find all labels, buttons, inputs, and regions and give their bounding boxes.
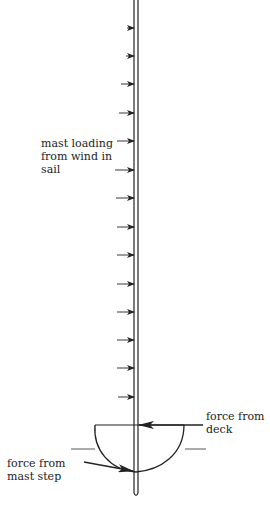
mast-step-force-arrow [84, 462, 133, 471]
hull-section [95, 425, 184, 472]
force-from-mast-step-label: force from mast step [7, 457, 66, 483]
mast-loading-label: mast loading from wind in sail [41, 137, 113, 176]
mast [134, 0, 138, 496]
wind-load-arrows [115, 28, 134, 397]
force-from-deck-label: force from deck [206, 410, 265, 436]
